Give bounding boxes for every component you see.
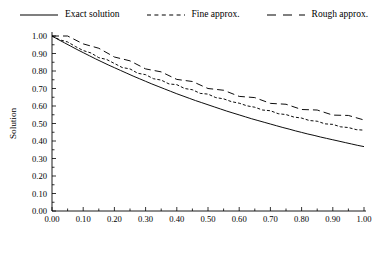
x-tick-label: 0.70 (263, 214, 278, 224)
y-tick-label: 0.70 (32, 84, 47, 94)
x-tick-label: 0.40 (169, 214, 184, 224)
x-tick-label: 0.80 (294, 214, 309, 224)
long-dash-line-key-icon (266, 11, 306, 19)
x-tick-label: 0.60 (232, 214, 247, 224)
series-line-fine-approx (52, 36, 364, 130)
legend-label-exact-solution: Exact solution (65, 10, 120, 20)
y-tick-label: 0.10 (32, 189, 47, 199)
legend-item-exact-solution: Exact solution (19, 10, 120, 20)
y-tick-label: 0.20 (32, 171, 47, 181)
y-axis-title: Solution (8, 108, 18, 140)
y-tick-label: 0.50 (32, 119, 47, 129)
plot-area: 0.000.100.200.300.400.500.600.700.800.90… (0, 24, 387, 224)
plot-svg: 0.000.100.200.300.400.500.600.700.800.90… (0, 24, 387, 224)
series-line-exact-solution (52, 36, 364, 147)
y-tick-label: 0.90 (32, 49, 47, 59)
legend-label-fine-approx: Fine approx. (192, 10, 240, 20)
series-line-rough-approx (52, 36, 364, 120)
x-tick-label: 0.20 (107, 214, 122, 224)
data-series-layer (52, 36, 364, 147)
y-tick-label: 0.80 (32, 66, 47, 76)
x-tick-label: 0.50 (200, 214, 215, 224)
x-axis-ticks: 0.000.100.200.300.400.500.600.700.800.90… (44, 207, 371, 224)
minor-ticks (52, 45, 348, 211)
y-tick-label: 1.00 (32, 31, 47, 41)
x-tick-label: 1.00 (356, 214, 371, 224)
chart-figure: Exact solution Fine approx. Rough approx… (0, 0, 387, 261)
y-tick-label: 0.40 (32, 136, 47, 146)
x-tick-label: 0.10 (76, 214, 91, 224)
legend-item-fine-approx: Fine approx. (146, 10, 240, 20)
short-dash-line-key-icon (146, 11, 186, 19)
y-tick-label: 0.30 (32, 154, 47, 164)
x-tick-label: 0.30 (138, 214, 153, 224)
solid-line-key-icon (19, 11, 59, 19)
legend-item-rough-approx: Rough approx. (266, 10, 368, 20)
legend-label-rough-approx: Rough approx. (312, 10, 368, 20)
x-tick-label: 0.00 (44, 214, 59, 224)
x-tick-label: 0.90 (325, 214, 340, 224)
chart-legend: Exact solution Fine approx. Rough approx… (0, 6, 387, 24)
y-tick-label: 0.60 (32, 101, 47, 111)
